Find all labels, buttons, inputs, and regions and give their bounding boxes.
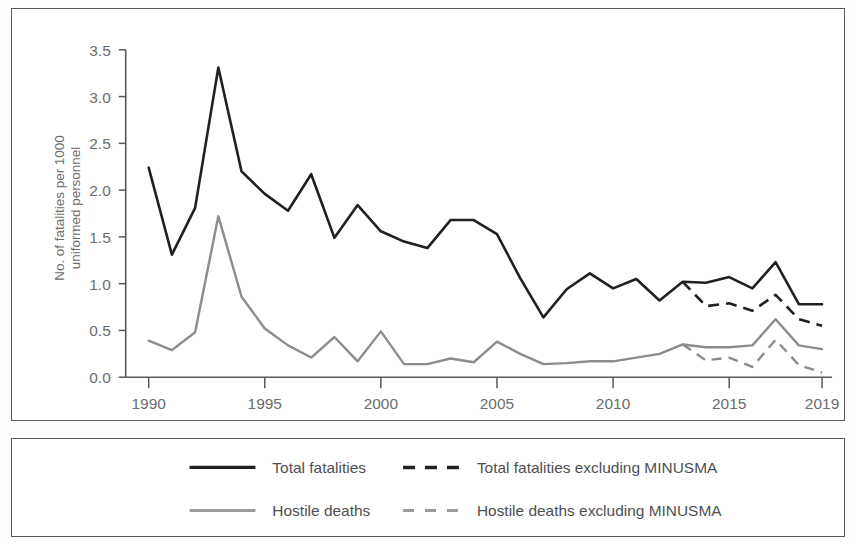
series-hostile-deaths bbox=[149, 216, 822, 364]
chart-panel: No. of fatalities per 1000 uniformed per… bbox=[11, 8, 845, 421]
x-tick-label-1995: 1995 bbox=[248, 395, 282, 412]
y-tick-label-0.5: 0.5 bbox=[89, 322, 110, 339]
legend-item-total-fatalities[interactable]: Total fatalities bbox=[190, 459, 367, 476]
legend-item-total-fatalities-excl-minusma[interactable]: Total fatalities excluding MINUSMA bbox=[403, 459, 718, 476]
legend-label-total-fatalities: Total fatalities bbox=[272, 459, 366, 476]
y-tick-label-2.0: 2.0 bbox=[89, 182, 110, 199]
legend-label-hostile-deaths: Hostile deaths bbox=[272, 503, 370, 520]
chart-page: No. of fatalities per 1000 uniformed per… bbox=[0, 0, 856, 546]
series-group bbox=[149, 68, 822, 373]
legend-panel: Total fatalities Total fatalities exclud… bbox=[11, 438, 845, 537]
x-tick-label-1990: 1990 bbox=[131, 395, 165, 412]
legend-item-hostile-deaths-excl-minusma[interactable]: Hostile deaths excluding MINUSMA bbox=[403, 503, 722, 520]
legend: Total fatalities Total fatalities exclud… bbox=[12, 439, 844, 536]
y-axis-title: No. of fatalities per 1000 uniformed per… bbox=[52, 135, 83, 280]
y-tick-label-1.5: 1.5 bbox=[89, 229, 110, 246]
legend-label-hostile-deaths-excl-minusma: Hostile deaths excluding MINUSMA bbox=[477, 503, 723, 520]
x-axis-ticks: 1990199520002005201020152019 bbox=[131, 377, 839, 412]
fatalities-line-chart: No. of fatalities per 1000 uniformed per… bbox=[12, 9, 844, 420]
series-total-fatalities bbox=[149, 68, 822, 318]
y-tick-label-3.5: 3.5 bbox=[89, 42, 110, 59]
y-axis-title-line1: No. of fatalities per 1000 bbox=[52, 135, 67, 280]
y-tick-label-0.0: 0.0 bbox=[89, 369, 110, 386]
y-tick-label-2.5: 2.5 bbox=[89, 135, 110, 152]
legend-item-hostile-deaths[interactable]: Hostile deaths bbox=[190, 503, 371, 520]
y-axis-ticks: 3.5 3.0 2.5 2.0 1.5 1.0 0.5 0.0 bbox=[89, 42, 125, 386]
legend-label-total-fatalities-excl-minusma: Total fatalities excluding MINUSMA bbox=[477, 459, 718, 476]
x-tick-label-2005: 2005 bbox=[480, 395, 514, 412]
x-tick-label-2019: 2019 bbox=[805, 395, 839, 412]
x-tick-label-2000: 2000 bbox=[364, 395, 398, 412]
y-axis-title-line2: uniformed personnel bbox=[68, 147, 83, 269]
y-tick-label-3.0: 3.0 bbox=[89, 89, 110, 106]
y-tick-label-1.0: 1.0 bbox=[89, 276, 110, 293]
x-tick-label-2010: 2010 bbox=[596, 395, 630, 412]
x-tick-label-2015: 2015 bbox=[712, 395, 746, 412]
